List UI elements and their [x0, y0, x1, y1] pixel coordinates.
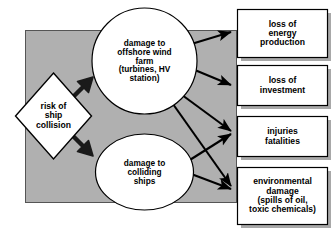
- diagram-canvas: risk of ship collision damage to offshor…: [0, 0, 334, 232]
- diagram-svg: [0, 0, 334, 232]
- node-injuries-fatalities[interactable]: [238, 117, 328, 157]
- node-damage-offshore-wind-farm[interactable]: [92, 8, 197, 114]
- outcome-box-group: [238, 10, 332, 229]
- node-damage-colliding-ships[interactable]: [96, 134, 194, 210]
- node-environmental-damage[interactable]: [238, 168, 328, 225]
- node-loss-of-energy-production[interactable]: [238, 10, 328, 58]
- node-loss-of-investment[interactable]: [238, 66, 328, 106]
